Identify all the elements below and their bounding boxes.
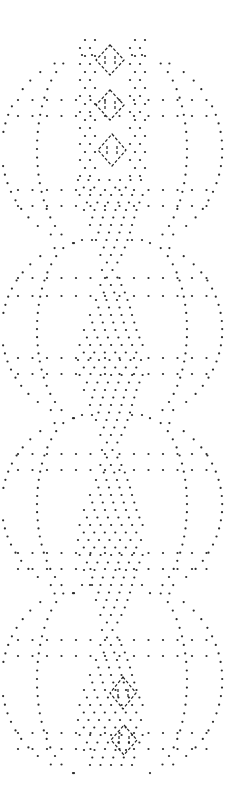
pricking-dot [54, 422, 56, 424]
pricking-dot [110, 704, 112, 706]
pricking-dot [131, 404, 133, 406]
pricking-dot [101, 449, 103, 451]
pricking-dot [104, 469, 106, 471]
pricking-dot [17, 277, 19, 279]
pricking-dot [79, 175, 81, 177]
pricking-dot [168, 755, 170, 757]
pricking-dot [104, 209, 106, 211]
pricking-dot [83, 209, 85, 211]
pricking-dot [11, 105, 13, 107]
pricking-dot [79, 95, 81, 97]
pricking-dot [185, 661, 187, 663]
pricking-dot [106, 456, 108, 458]
pricking-dot [100, 374, 102, 376]
pricking-dot [221, 495, 223, 497]
pricking-dot [191, 552, 193, 554]
pricking-dot [95, 419, 97, 421]
pricking-dot [89, 189, 91, 191]
pricking-dot [147, 189, 149, 191]
pricking-dot [29, 80, 31, 82]
pricking-dot [185, 695, 187, 697]
pricking-dot [172, 763, 174, 765]
pricking-dot [37, 661, 39, 663]
pricking-dot [108, 486, 110, 488]
pricking-dot [131, 554, 133, 556]
pricking-dot [102, 681, 104, 683]
pricking-dot [186, 336, 188, 338]
pricking-dot [91, 414, 93, 416]
pricking-dot [60, 277, 62, 279]
pricking-dot [172, 438, 174, 440]
pricking-dot [179, 729, 181, 731]
pricking-dot [4, 479, 6, 481]
pricking-dot [147, 205, 149, 207]
pricking-dot [93, 509, 95, 511]
pricking-dot [60, 552, 62, 554]
pricking-dot [79, 111, 81, 113]
pricking-dot [97, 591, 99, 593]
pricking-dot [141, 54, 143, 56]
pricking-dot [81, 414, 83, 416]
pricking-dot [83, 351, 85, 353]
pricking-dot [162, 568, 164, 570]
pricking-dot [79, 63, 81, 65]
pricking-dot [79, 344, 81, 346]
pricking-dot [184, 122, 186, 124]
pricking-dot [215, 644, 217, 646]
pricking-dot [75, 453, 77, 455]
pricking-dot [133, 453, 135, 455]
pricking-dot [193, 80, 195, 82]
pricking-dot [221, 687, 223, 689]
pricking-dot [77, 179, 79, 181]
pricking-dot [202, 738, 204, 740]
pricking-dot [126, 419, 128, 421]
pricking-dot [205, 748, 207, 750]
pricking-dot [20, 560, 22, 562]
pricking-dot [39, 182, 41, 184]
pricking-dot [141, 584, 143, 586]
pricking-dot [89, 95, 91, 97]
pricking-dot [128, 201, 130, 203]
pricking-dot [99, 614, 101, 616]
pricking-dot [94, 71, 96, 73]
pricking-dot [129, 231, 131, 233]
pricking-dot [114, 351, 116, 353]
pricking-dot [17, 732, 19, 734]
pricking-dot [89, 159, 91, 161]
pricking-dot [110, 674, 112, 676]
pricking-dot [100, 734, 102, 736]
pricking-dot [86, 201, 88, 203]
pricking-dot [117, 336, 119, 338]
pricking-dot [220, 344, 222, 346]
pricking-dot [179, 279, 181, 281]
pricking-dot [99, 254, 101, 256]
pricking-dot [135, 711, 137, 713]
pricking-dot [172, 584, 174, 586]
pricking-dot [41, 544, 43, 546]
pricking-dot [60, 584, 62, 586]
pricking-dot [183, 430, 185, 432]
pricking-dot [161, 763, 163, 765]
pricking-dot [117, 381, 119, 383]
pricking-dot [100, 554, 102, 556]
pricking-dot [38, 479, 40, 481]
pricking-dot [37, 344, 39, 346]
pricking-dot [124, 246, 126, 248]
pricking-dot [119, 359, 121, 361]
pricking-dot [118, 666, 120, 668]
pricking-dot [116, 636, 118, 638]
pricking-dot [98, 179, 100, 181]
pricking-dot [118, 469, 120, 471]
pricking-dot [139, 143, 141, 145]
pricking-dot [116, 441, 118, 443]
pricking-dot [89, 277, 91, 279]
pricking-dot [104, 726, 106, 728]
pricking-dot [207, 377, 209, 379]
pricking-dot [160, 592, 162, 594]
pricking-dot [98, 359, 100, 361]
pricking-dot [118, 655, 120, 657]
pricking-dot [139, 95, 141, 97]
pricking-dot [133, 99, 135, 101]
pricking-dot [104, 99, 106, 101]
pricking-dot [185, 131, 187, 133]
